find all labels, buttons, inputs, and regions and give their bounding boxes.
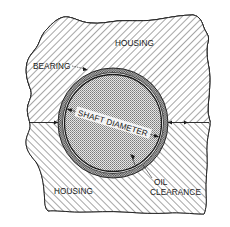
label-housing-top: HOUSING [115, 39, 154, 48]
label-clearance: CLEARANCE [150, 188, 201, 197]
label-oil: OIL [154, 178, 168, 187]
label-housing-bottom: HOUSING [54, 187, 93, 196]
label-bearing: BEARING [33, 62, 71, 71]
bearing-diagram: SHAFT DIAMETER HOUSING BEARING HOUSING O… [0, 0, 230, 227]
